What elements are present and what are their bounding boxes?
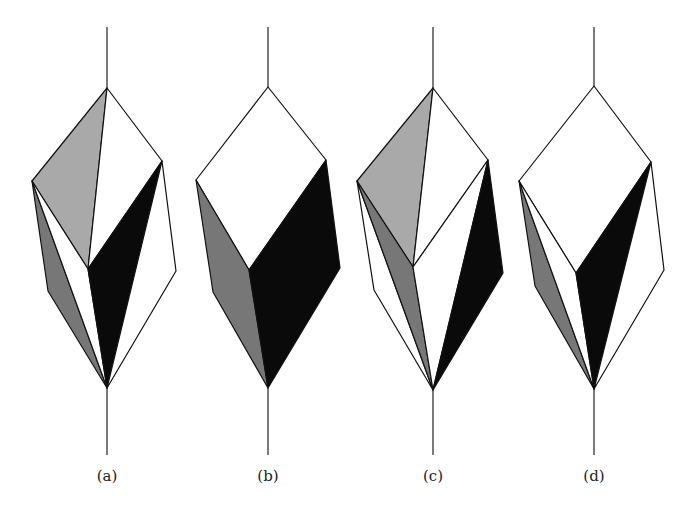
panel-a <box>32 27 176 455</box>
panel-label-d: (d) <box>583 467 604 485</box>
panel-label-c: (c) <box>423 467 443 485</box>
panel-label-a: (a) <box>97 467 118 485</box>
panel-d <box>519 27 664 455</box>
polyhedra-figure: (a) (b) (c) (d) <box>0 0 686 509</box>
panel-label-b: (b) <box>257 467 278 485</box>
panel-b <box>196 27 340 455</box>
panel-c <box>357 27 503 455</box>
